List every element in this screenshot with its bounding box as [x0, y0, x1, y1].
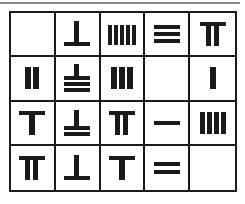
- grid-cell-r4-c2: [56, 146, 101, 190]
- rod-6-vertical-over-horizontal-icon: [62, 19, 92, 49]
- grid-cell-r4-c3: [101, 146, 146, 190]
- grid-cell-r3-c1: [11, 102, 56, 146]
- rod-6-horizontal-over-vertical-icon: [17, 108, 47, 138]
- rod-2-two-verticals-icon: [17, 63, 47, 93]
- rod-6-vertical-over-horizontal-icon: [62, 153, 92, 183]
- empty-cell: [17, 19, 47, 49]
- grid-cell-r1-c1: [11, 13, 56, 57]
- rod-8-vertical-over-three-horizontals-icon: [62, 63, 92, 93]
- rod-2-two-horizontals-icon: [152, 153, 182, 183]
- rod-5-five-verticals-icon: [107, 19, 137, 49]
- grid-cell-r4-c1: [11, 146, 56, 190]
- grid-cell-r2-c3: [101, 57, 146, 101]
- rod-7-horizontal-over-two-verticals-icon: [107, 108, 137, 138]
- rod-3-three-horizontals-icon: [152, 19, 182, 49]
- grid-cell-r2-c4: [145, 57, 190, 101]
- top-rule-line: [0, 2, 240, 4]
- grid-cell-r1-c2: [56, 13, 101, 57]
- grid-cell-r2-c5: [190, 57, 235, 101]
- grid-cell-r4-c5: [190, 146, 235, 190]
- rod-1-one-horizontal-icon: [152, 108, 182, 138]
- empty-cell: [152, 63, 182, 93]
- counting-rod-puzzle-grid: [9, 11, 237, 192]
- grid-cell-r1-c5: [190, 13, 235, 57]
- grid-cell-r3-c2: [56, 102, 101, 146]
- grid-cell-r1-c3: [101, 13, 146, 57]
- rod-1-one-vertical-icon: [198, 63, 228, 93]
- rod-4-four-verticals-icon: [198, 108, 228, 138]
- grid-cell-r1-c4: [145, 13, 190, 57]
- grid-cell-r3-c3: [101, 102, 146, 146]
- rod-7-vertical-over-two-horizontals-icon: [62, 108, 92, 138]
- grid-cell-r4-c4: [145, 146, 190, 190]
- rod-3-three-verticals-icon: [107, 63, 137, 93]
- grid-cell-r3-c4: [145, 102, 190, 146]
- rod-6-horizontal-over-vertical-icon: [107, 153, 137, 183]
- empty-cell: [198, 153, 228, 183]
- rod-7-horizontal-over-two-verticals-icon: [198, 19, 228, 49]
- rod-7-horizontal-over-two-verticals-icon: [17, 153, 47, 183]
- grid-cell-r3-c5: [190, 102, 235, 146]
- grid-cell-r2-c2: [56, 57, 101, 101]
- grid-cell-r2-c1: [11, 57, 56, 101]
